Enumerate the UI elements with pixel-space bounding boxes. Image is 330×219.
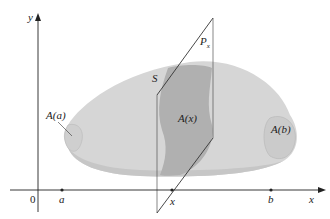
plane-label-sub: x <box>207 42 210 50</box>
tick-b-dot <box>269 188 272 191</box>
tick-x-label: x <box>170 196 175 207</box>
area-a-label: A(a) <box>46 110 66 121</box>
tick-b-label: b <box>268 194 274 205</box>
plane-label: Px <box>200 36 210 50</box>
tick-a-dot <box>60 188 63 191</box>
left-end-face <box>65 124 83 151</box>
plane-label-main: P <box>200 35 207 47</box>
origin-label: 0 <box>30 194 36 205</box>
x-axis-arrow-icon <box>318 187 326 193</box>
tick-a-label: a <box>59 194 65 205</box>
solid-label: S <box>152 73 158 84</box>
area-b-label: A(b) <box>271 124 291 135</box>
y-axis-label: y <box>28 12 33 23</box>
tick-x-dot <box>170 188 173 191</box>
x-axis-label: x <box>309 194 314 205</box>
y-axis-arrow-icon <box>35 13 41 21</box>
area-x-label: A(x) <box>178 113 197 124</box>
